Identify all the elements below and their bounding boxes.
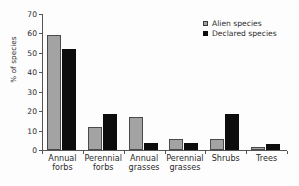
chart-legend: Alien speciesDeclared species <box>203 19 277 39</box>
category-label: Trees <box>246 154 287 163</box>
legend-label: Declared species <box>212 29 277 38</box>
bar-group <box>42 14 83 150</box>
bar-group <box>124 14 165 150</box>
bar-declared <box>225 114 239 150</box>
bar-declared <box>103 114 117 150</box>
bar-alien <box>169 139 183 150</box>
bar-alien <box>47 35 61 150</box>
bar-alien <box>88 127 102 150</box>
x-axis-tick <box>287 151 288 154</box>
y-axis-tick-label: 0 <box>32 146 37 155</box>
y-axis-label: % of species <box>9 25 18 95</box>
declared-swatch-icon <box>203 31 208 36</box>
category-label: Annual forbs <box>42 154 83 173</box>
y-axis-tick-label: 10 <box>27 126 37 135</box>
bar-group <box>165 14 206 150</box>
y-axis-tick-label: 40 <box>27 68 37 77</box>
bar-alien <box>129 117 143 150</box>
y-axis-tick-label: 70 <box>27 10 37 19</box>
bar-alien <box>251 147 265 150</box>
legend-item: Declared species <box>203 29 277 38</box>
category-label: Perennial grasses <box>165 154 206 173</box>
bar-alien <box>210 139 224 150</box>
y-axis-tick-label: 30 <box>27 87 37 96</box>
y-axis-tick-label: 20 <box>27 107 37 116</box>
bar-declared <box>266 144 280 150</box>
bar-chart: % of species 010203040506070 Annual forb… <box>0 0 299 186</box>
bar-declared <box>184 143 198 150</box>
category-label: Shrubs <box>205 154 246 163</box>
bar-declared <box>62 49 76 150</box>
y-axis-tick-label: 50 <box>27 48 37 57</box>
alien-swatch-icon <box>203 21 208 26</box>
y-axis-tick-label: 60 <box>27 29 37 38</box>
category-label: Perennial forbs <box>83 154 124 173</box>
bar-declared <box>144 143 158 150</box>
bar-group <box>83 14 124 150</box>
legend-item: Alien species <box>203 19 277 28</box>
legend-label: Alien species <box>212 19 262 28</box>
category-label: Annual grasses <box>124 154 165 173</box>
